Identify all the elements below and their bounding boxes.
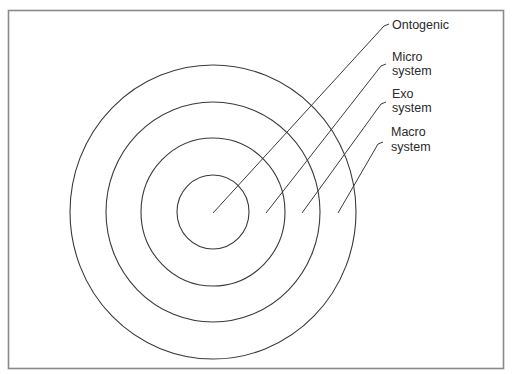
ring-exo-system	[106, 102, 320, 322]
label-ontogenic: Ontogenic	[392, 18, 449, 32]
leader-line-micro-system	[266, 64, 386, 213]
leader-line-ontogenic	[213, 24, 389, 213]
label-exo-line2: system	[392, 101, 432, 115]
label-micro-line1: Micro	[392, 50, 423, 64]
label-exo-line1: Exo	[392, 87, 414, 101]
label-micro-line2: system	[392, 64, 432, 78]
label-macro-line1: Macro	[391, 125, 426, 139]
label-macro-line2: system	[391, 140, 431, 154]
ring-micro-system	[141, 138, 285, 286]
ring-macro-system	[70, 65, 356, 359]
ecological-systems-diagram: Ontogenic Micro system Exo system Macro …	[0, 0, 513, 374]
leader-line-macro-system	[338, 142, 383, 213]
leader-line-exo-system	[302, 102, 386, 213]
